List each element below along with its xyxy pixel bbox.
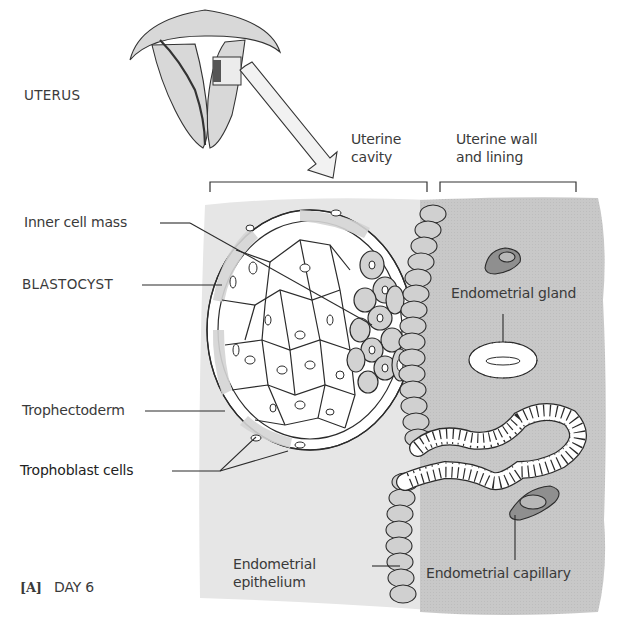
endometrial-gland-label: Endometrial gland xyxy=(451,285,576,302)
endometrial-capillary-label: Endometrial capillary xyxy=(426,565,571,582)
panel-letter: [A] xyxy=(20,580,42,595)
endometrial-epithelium-label: Endometrial epithelium xyxy=(233,555,316,591)
blastocyst-label: BLASTOCYST xyxy=(22,276,113,293)
blastocyst-illustration xyxy=(207,210,413,450)
day-label: DAY 6 xyxy=(54,579,94,595)
uterine-wall-label: Uterine wall and lining xyxy=(456,130,537,166)
uterus-label: UTERUS xyxy=(24,87,80,104)
zoom-arrow-icon xyxy=(240,62,337,178)
panel-label: [A] DAY 6 xyxy=(20,579,94,596)
region-brackets xyxy=(210,182,576,192)
inner-cell-mass-label: Inner cell mass xyxy=(24,214,127,231)
trophectoderm-label: Trophectoderm xyxy=(22,402,125,419)
diagram-canvas xyxy=(0,0,629,643)
uterine-cavity-label: Uterine cavity xyxy=(351,130,401,166)
trophoblast-cells-label: Trophoblast cells xyxy=(20,462,133,479)
endometrial-gland-illustration xyxy=(469,342,537,378)
